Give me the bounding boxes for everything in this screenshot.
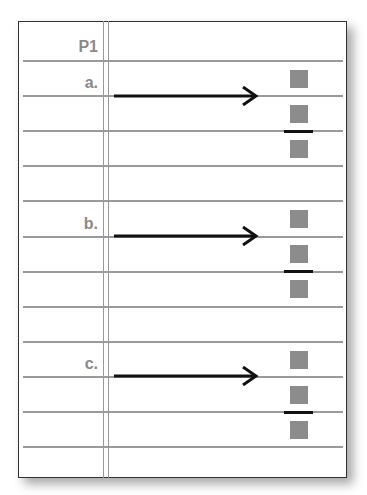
- rule-line: [23, 306, 343, 308]
- right-arrow-icon: [114, 226, 264, 246]
- square-c-2: [290, 386, 308, 404]
- square-a-2: [290, 105, 308, 123]
- square-b-2: [290, 245, 308, 263]
- square-a-3: [290, 140, 308, 158]
- row-label-a: a.: [85, 74, 98, 92]
- rule-line: [23, 165, 343, 167]
- rule-line: [23, 446, 343, 448]
- right-arrow-icon: [114, 366, 264, 386]
- rule-line: [23, 200, 343, 202]
- rule-line: [23, 60, 343, 62]
- margin-line-left: [103, 21, 104, 478]
- divider-bar-a: [284, 130, 313, 133]
- row-label-c: c.: [85, 355, 98, 373]
- square-a-1: [290, 70, 308, 88]
- divider-bar-c: [284, 411, 313, 414]
- square-b-1: [290, 210, 308, 228]
- row-label-b: b.: [84, 215, 98, 233]
- square-c-1: [290, 351, 308, 369]
- right-arrow-icon: [114, 86, 264, 106]
- square-b-3: [290, 280, 308, 298]
- divider-bar-b: [284, 270, 313, 273]
- margin-line-right: [108, 21, 109, 478]
- header-label: P1: [78, 38, 98, 56]
- rule-line: [23, 341, 343, 343]
- square-c-3: [290, 421, 308, 439]
